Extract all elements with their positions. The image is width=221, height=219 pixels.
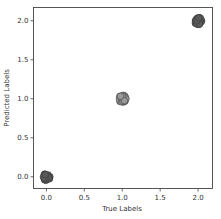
- x-tick-label: 2.0: [193, 194, 204, 202]
- y-axis-label: Predicted Labels: [3, 69, 11, 127]
- y-tick-label: 1.0: [17, 95, 28, 103]
- y-tick-label: 0.0: [17, 173, 28, 181]
- points-layer: [40, 14, 205, 183]
- x-axis-ticks: 0.00.51.01.52.0: [41, 189, 204, 202]
- x-tick-label: 0.0: [41, 194, 52, 202]
- scatter-point-class-1: [117, 93, 123, 99]
- scatter-chart: 0.00.51.01.52.0 0.00.51.01.52.0 True Lab…: [0, 0, 221, 219]
- y-tick-label: 2.0: [17, 17, 28, 25]
- x-tick-label: 1.0: [117, 194, 128, 202]
- x-tick-label: 0.5: [79, 194, 90, 202]
- y-tick-label: 0.5: [17, 134, 28, 142]
- x-axis-label: True Labels: [101, 205, 142, 213]
- y-axis-ticks: 0.00.51.01.52.0: [17, 17, 33, 181]
- x-tick-label: 1.5: [155, 194, 166, 202]
- scatter-point-class-2: [196, 15, 202, 21]
- y-tick-label: 1.5: [17, 56, 28, 64]
- scatter-point-class-0: [42, 171, 48, 177]
